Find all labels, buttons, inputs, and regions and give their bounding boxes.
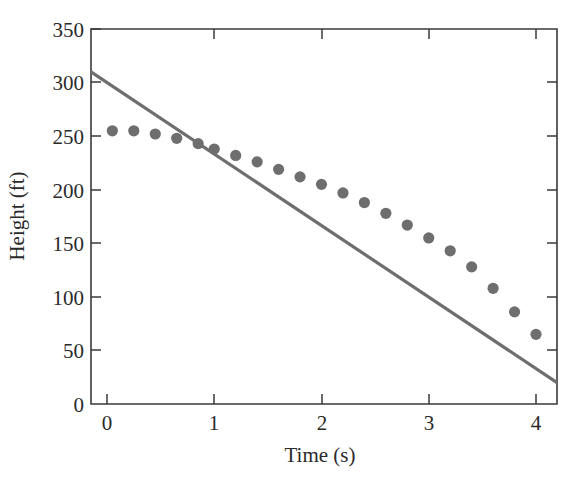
scatter-plot: 350 300 250 200 150 100 50 0 0 1 2 3 4 H… <box>0 0 581 482</box>
data-point <box>193 138 204 149</box>
data-point <box>107 125 118 136</box>
data-point <box>488 283 499 294</box>
data-point <box>252 156 263 167</box>
x-label-2: 2 <box>317 411 328 435</box>
y-label-200: 200 <box>53 179 85 203</box>
data-point <box>171 133 182 144</box>
y-label-50: 50 <box>63 339 84 363</box>
x-label-3: 3 <box>424 411 435 435</box>
y-label-0: 0 <box>74 393 85 417</box>
y-label-100: 100 <box>53 286 85 310</box>
data-point <box>337 187 348 198</box>
data-point <box>294 171 305 182</box>
y-label-300: 300 <box>53 71 85 95</box>
y-label-350: 350 <box>53 18 85 42</box>
data-point <box>316 179 327 190</box>
data-point <box>359 197 370 208</box>
data-point <box>423 232 434 243</box>
data-point <box>230 150 241 161</box>
y-axis-title: Height (ft) <box>5 171 29 260</box>
data-point <box>380 208 391 219</box>
data-point <box>445 245 456 256</box>
data-point <box>466 261 477 272</box>
data-point <box>530 329 541 340</box>
data-point <box>209 143 220 154</box>
x-label-1: 1 <box>209 411 220 435</box>
data-point <box>509 306 520 317</box>
data-point <box>273 164 284 175</box>
data-point <box>402 219 413 230</box>
x-label-4: 4 <box>531 411 542 435</box>
data-point <box>150 128 161 139</box>
data-point <box>128 125 139 136</box>
y-label-250: 250 <box>53 125 85 149</box>
y-label-150: 150 <box>53 232 85 256</box>
x-axis-title: Time (s) <box>285 443 356 467</box>
chart-figure: 350 300 250 200 150 100 50 0 0 1 2 3 4 H… <box>0 0 581 482</box>
chart-background <box>0 0 581 482</box>
x-label-0: 0 <box>102 411 113 435</box>
